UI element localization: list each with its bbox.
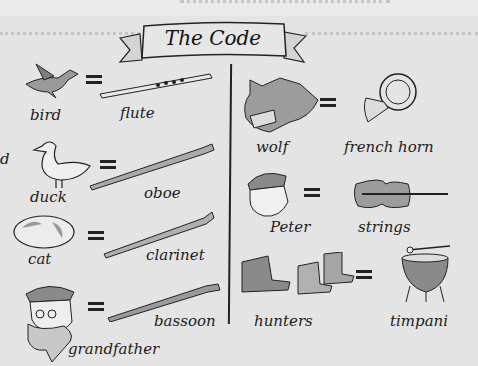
- timpani-icon: [398, 244, 454, 306]
- equals-sign: [356, 270, 372, 279]
- equals-sign: [88, 302, 104, 311]
- label-hunters: hunters: [254, 312, 313, 330]
- equals-sign: [320, 98, 336, 107]
- column-divider: [228, 64, 232, 324]
- bird-icon: [22, 62, 82, 98]
- dotted-rule-top: [180, 0, 390, 5]
- label-bird: bird: [30, 106, 61, 124]
- dotted-rule-right: [305, 32, 478, 37]
- label-oboe: oboe: [144, 184, 181, 202]
- label-wolf: wolf: [256, 138, 288, 156]
- label-grandfather: grandfather: [68, 340, 159, 358]
- page-title: The Code: [148, 26, 278, 50]
- cat-icon: [12, 212, 78, 250]
- label-duck: duck: [30, 188, 67, 206]
- label-flute: flute: [120, 104, 155, 122]
- duck-icon: [28, 138, 94, 190]
- edge-text-fragment: d: [0, 150, 10, 168]
- equals-sign: [304, 188, 320, 197]
- label-clarinet: clarinet: [146, 246, 205, 264]
- label-strings: strings: [358, 218, 411, 236]
- label-bassoon: bassoon: [154, 312, 216, 330]
- violin-icon: [352, 176, 452, 212]
- french-horn-icon: [362, 62, 422, 128]
- label-peter: Peter: [270, 218, 310, 236]
- flute-icon: [98, 70, 214, 100]
- label-timpani: timpani: [390, 312, 448, 330]
- wolf-icon: [240, 70, 324, 136]
- title-banner: The Code: [118, 20, 308, 64]
- hunters-boots-icon: [238, 252, 356, 298]
- label-french-horn: french horn: [344, 138, 434, 156]
- label-cat: cat: [28, 250, 51, 268]
- peter-icon: [244, 166, 294, 222]
